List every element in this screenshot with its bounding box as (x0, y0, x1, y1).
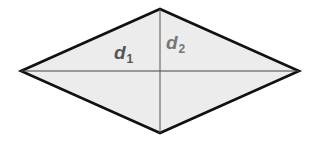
label-d2: d2 (166, 33, 185, 55)
label-d2-subscript: 2 (179, 42, 186, 56)
label-d1-subscript: 1 (127, 52, 134, 66)
label-d2-main: d (166, 32, 178, 53)
label-d1: d1 (114, 43, 133, 65)
label-d1-main: d (114, 42, 126, 63)
rhombus-diagram (0, 0, 320, 141)
